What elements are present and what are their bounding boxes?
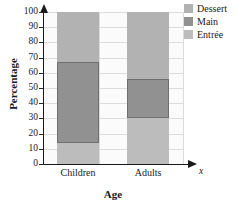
legend-label: Entrée bbox=[197, 30, 223, 40]
y-axis-tick-label: 100 bbox=[14, 7, 38, 17]
y-axis-tick-label: 50 bbox=[14, 83, 38, 93]
y-axis-tick-mark bbox=[39, 27, 43, 28]
x-axis-line bbox=[43, 164, 189, 165]
y-axis-line bbox=[43, 12, 44, 164]
x-axis-tick-label-children: Children bbox=[43, 167, 113, 178]
bar-children[interactable] bbox=[57, 12, 99, 164]
legend-item-dessert[interactable]: Dessert bbox=[184, 2, 242, 15]
y-axis-tick-label: 40 bbox=[14, 98, 38, 108]
legend-swatch-icon bbox=[184, 4, 193, 13]
y-axis-tick-mark bbox=[39, 73, 43, 74]
y-axis-tick-label: 10 bbox=[14, 144, 38, 154]
x-axis-arrow-icon bbox=[188, 160, 197, 168]
legend-swatch-icon bbox=[184, 17, 193, 26]
y-axis-tick-label: 20 bbox=[14, 129, 38, 139]
y-axis-tick-mark bbox=[39, 134, 43, 135]
bar-segment-dessert[interactable] bbox=[127, 12, 169, 79]
x-axis-tick-label-adults: Adults bbox=[113, 167, 183, 178]
bar-adults[interactable] bbox=[127, 12, 169, 164]
y-axis-tick-label: 70 bbox=[14, 53, 38, 63]
y-axis-tick-mark bbox=[39, 118, 43, 119]
y-axis-tick-mark bbox=[39, 88, 43, 89]
y-axis-tick-label: 60 bbox=[14, 68, 38, 78]
bar-segment-entree[interactable] bbox=[127, 118, 169, 164]
x-axis-title: Age bbox=[43, 188, 183, 200]
legend-item-main[interactable]: Main bbox=[184, 15, 242, 28]
y-axis-tick-labels: 0102030405060708090100 bbox=[14, 12, 38, 164]
bar-segment-entree[interactable] bbox=[57, 143, 99, 164]
legend-label: Main bbox=[197, 17, 218, 27]
y-axis-tick-label: 0 bbox=[14, 159, 38, 169]
y-axis-tick-mark bbox=[39, 103, 43, 104]
y-axis-tick-label: 30 bbox=[14, 114, 38, 124]
legend: DessertMainEntrée bbox=[184, 2, 242, 41]
y-axis-tick-label: 90 bbox=[14, 22, 38, 32]
legend-swatch-icon bbox=[184, 30, 193, 39]
legend-label: Dessert bbox=[197, 4, 227, 14]
bar-segment-main[interactable] bbox=[57, 62, 99, 143]
x-axis-variable-label: x bbox=[199, 166, 203, 176]
stacked-bar-chart: Percentage 0102030405060708090100 x Chil… bbox=[0, 0, 242, 204]
vertical-gridline bbox=[99, 12, 100, 164]
legend-item-entre[interactable]: Entrée bbox=[184, 28, 242, 41]
bar-segment-main[interactable] bbox=[127, 79, 169, 119]
bar-segment-dessert[interactable] bbox=[57, 12, 99, 62]
y-axis-tick-label: 80 bbox=[14, 38, 38, 48]
y-axis-tick-mark bbox=[39, 58, 43, 59]
plot-area bbox=[43, 12, 183, 164]
y-axis-tick-mark bbox=[39, 12, 43, 13]
y-axis-tick-mark bbox=[39, 42, 43, 43]
y-axis-tick-mark bbox=[39, 164, 43, 165]
y-axis-tick-mark bbox=[39, 149, 43, 150]
